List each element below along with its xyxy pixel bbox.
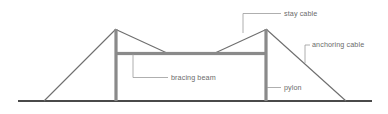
leader-line-stay-cable (243, 14, 281, 34)
bridge-diagram-canvas: stay cable anchoring cable bracing beam … (0, 0, 388, 114)
label-bracing-beam: bracing beam (171, 73, 216, 82)
label-stay-cable: stay cable (284, 9, 317, 18)
stay-cable-group (117, 30, 265, 53)
pylon-right (264, 29, 267, 101)
bracing-beam-group (115, 52, 267, 55)
stay-cable-right (215, 30, 265, 53)
leader-line-anchoring-cable (305, 45, 310, 63)
stay-cable-left (117, 30, 167, 53)
label-anchoring-cable: anchoring cable (312, 40, 364, 49)
leader-line-bracing-beam (133, 54, 168, 78)
bridge-diagram: stay cable anchoring cable bracing beam … (0, 0, 388, 114)
label-pylon: pylon (284, 83, 302, 92)
anchoring-cable-left (44, 29, 116, 101)
pylon-left (114, 29, 117, 101)
bracing-beam (115, 52, 267, 55)
